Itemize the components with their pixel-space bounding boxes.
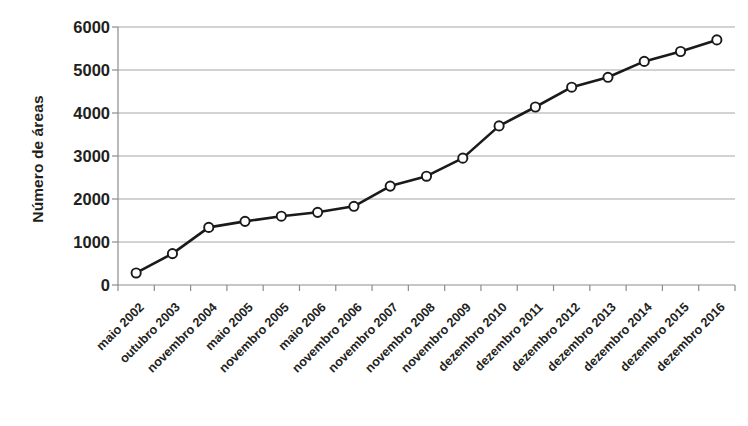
figure-caption — [0, 416, 748, 426]
x-axis-tick-labels: maio 2002outubro 2003novembro 2004maio 2… — [0, 0, 748, 426]
chart-figure: Número de áreas 010002000300040005000600… — [0, 0, 748, 426]
